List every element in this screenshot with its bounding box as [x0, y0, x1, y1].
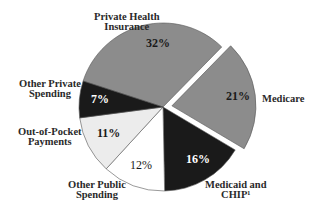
label-medicaid-line2: CHIP¹	[205, 190, 267, 200]
label-medicaid-chip: Medicaid and CHIP¹	[205, 180, 267, 200]
pct-medicaid: 16%	[186, 154, 210, 164]
label-other-public-line2: Spending	[68, 190, 126, 200]
pct-other-public: 12%	[130, 160, 152, 170]
label-medicare: Medicare	[262, 94, 304, 104]
label-phi-line2: Insurance	[94, 22, 160, 32]
pct-other-private: 7%	[91, 94, 109, 104]
label-other-private: Other Private Spending	[19, 79, 81, 99]
label-other-private-line2: Spending	[19, 89, 81, 99]
label-out-of-pocket: Out-of-Pocket Payments	[18, 127, 82, 147]
label-oop-line2: Payments	[18, 137, 82, 147]
label-private-health-insurance: Private Health Insurance	[94, 12, 160, 32]
pct-medicare: 21%	[226, 91, 250, 101]
label-other-public: Other Public Spending	[68, 180, 126, 200]
pct-private-health-insurance: 32%	[146, 38, 170, 48]
pct-out-of-pocket: 11%	[97, 128, 120, 138]
